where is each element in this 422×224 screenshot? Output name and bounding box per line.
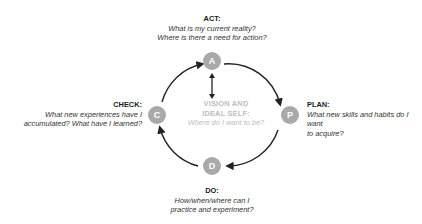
- do-question-2: practice and experiment?: [160, 205, 264, 215]
- do-label: DO: How/when/where can I practice and ex…: [160, 186, 264, 215]
- node-do-letter: D: [209, 161, 216, 171]
- vision-title-line1: VISION AND: [176, 99, 276, 109]
- vision-ideal-self: VISION AND IDEAL SELF: Where do I want t…: [176, 99, 276, 128]
- arrow-do-to-check: [160, 128, 198, 166]
- plan-title: PLAN:: [307, 100, 422, 110]
- node-act-letter: A: [209, 56, 216, 66]
- check-question-2: accumulated? What have I learned?: [0, 119, 142, 129]
- do-title: DO:: [160, 186, 264, 196]
- node-check: C: [148, 106, 166, 124]
- node-plan: P: [281, 106, 299, 124]
- vision-title-line2: IDEAL SELF:: [176, 109, 276, 119]
- check-label: CHECK: What new experiences have I accum…: [0, 100, 142, 129]
- check-title: CHECK:: [0, 100, 142, 110]
- node-do: D: [203, 157, 221, 175]
- check-question-1: What new experiences have I: [0, 110, 142, 120]
- arrow-plan-to-do: [228, 130, 278, 166]
- node-plan-letter: P: [287, 110, 293, 120]
- act-label: ACT: What is my current reality? Where i…: [150, 14, 274, 43]
- pdca-cycle-diagram: A P D C VISION AND IDEAL SELF: Where do …: [0, 0, 422, 224]
- plan-label: PLAN: What new skills and habits do I wa…: [307, 100, 422, 138]
- act-question-2: Where is there a need for action?: [150, 33, 274, 43]
- node-check-letter: C: [154, 110, 161, 120]
- arrow-check-to-act: [162, 64, 202, 102]
- plan-question-1: What new skills and habits do I want: [307, 110, 422, 129]
- act-title: ACT:: [150, 14, 274, 24]
- do-question-1: How/when/where can I: [160, 196, 264, 206]
- node-act: A: [203, 52, 221, 70]
- act-question-1: What is my current reality?: [150, 24, 274, 34]
- plan-question-2: to acquire?: [307, 129, 422, 139]
- arrow-act-to-plan: [224, 64, 280, 104]
- vision-question: Where do I want to be?: [176, 118, 276, 128]
